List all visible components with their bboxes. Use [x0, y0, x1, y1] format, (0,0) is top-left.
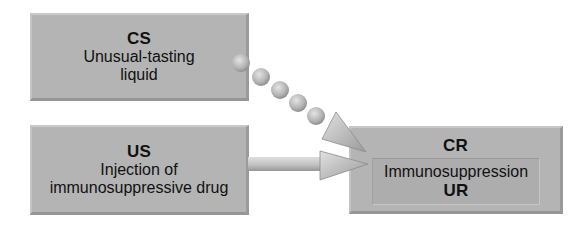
bead-icon: [307, 107, 325, 125]
arrowhead-icon: [320, 151, 368, 180]
us-to-cr-solid-arrow: [248, 151, 368, 180]
bead-icon: [232, 54, 250, 72]
bead-icon: [289, 94, 307, 112]
bead-icon: [271, 81, 289, 99]
arrow-shaft: [248, 157, 322, 171]
cs-to-cr-dotted-arrow: [232, 54, 366, 152]
arrowhead-icon: [322, 112, 366, 152]
bead-icon: [252, 68, 270, 86]
connector-arrows: [0, 0, 586, 234]
